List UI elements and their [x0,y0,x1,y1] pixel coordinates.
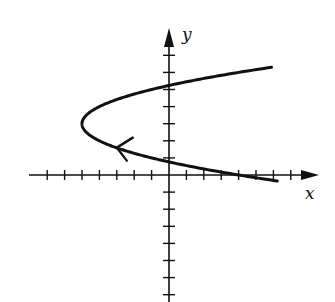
y-axis-label: y [181,24,192,44]
parametric-curve-plot: x y [0,0,335,302]
x-axis [29,170,319,180]
x-axis-label: x [305,183,315,203]
parabola-curve [82,67,277,181]
y-axis-arrowhead-icon [164,28,174,47]
y-axis [163,28,175,302]
x-axis-arrowhead-icon [301,170,319,180]
